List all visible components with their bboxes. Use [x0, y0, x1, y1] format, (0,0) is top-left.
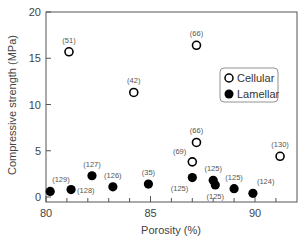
point-annotation: (130)	[271, 140, 289, 149]
cellular-point-open-circle-icon	[192, 138, 200, 146]
point-annotation: (124)	[257, 177, 275, 186]
legend: Cellular Lamellar	[220, 68, 280, 102]
legend-label-lamellar: Lamellar	[237, 88, 280, 100]
legend-open-circle-icon	[225, 74, 233, 82]
lamellar-point-filled-circle-icon	[108, 182, 117, 191]
point-annotation: (125)	[225, 173, 243, 182]
lamellar-point-filled-circle-icon	[87, 171, 96, 180]
y-tick-label: 5	[35, 145, 41, 157]
x-tick-label: 85	[144, 207, 156, 219]
lamellar-point-filled-circle-icon	[248, 189, 257, 198]
lamellar-point-filled-circle-icon	[211, 180, 220, 189]
point-annotation: (69)	[173, 147, 187, 156]
legend-filled-circle-icon	[225, 90, 234, 99]
point-annotation: (51)	[62, 36, 76, 45]
lamellar-point-filled-circle-icon	[230, 184, 239, 193]
lamellar-point-filled-circle-icon	[46, 187, 55, 196]
point-annotation: (66)	[190, 29, 204, 38]
point-annotation: (129)	[52, 175, 70, 184]
y-tick-label: 15	[29, 52, 41, 64]
lamellar-point-filled-circle-icon	[144, 179, 153, 188]
data-points: (51)(42)(66)(66)(69)(130)(129)(128)(127)…	[46, 29, 290, 201]
point-annotation: (126)	[104, 171, 122, 180]
x-tick-label: 80	[40, 207, 52, 219]
point-annotation: (127)	[83, 160, 101, 169]
scatter-chart: 05101520808590 (51)(42)(66)(66)(69)(130)…	[0, 0, 306, 245]
cellular-point-open-circle-icon	[65, 48, 73, 56]
cellular-point-open-circle-icon	[188, 158, 196, 166]
point-annotation: (125)	[207, 192, 225, 201]
point-annotation: (128)	[77, 186, 95, 195]
cellular-point-open-circle-icon	[192, 41, 200, 49]
x-tick-label: 90	[249, 207, 261, 219]
point-annotation: (42)	[127, 76, 141, 85]
cellular-point-open-circle-icon	[276, 152, 284, 160]
point-annotation: (125)	[204, 164, 222, 173]
y-axis-title: Compressive strength (MPa)	[6, 35, 18, 175]
y-tick-label: 10	[29, 99, 41, 111]
point-annotation: (35)	[142, 168, 156, 177]
lamellar-point-filled-circle-icon	[66, 185, 75, 194]
y-tick-label: 0	[35, 191, 41, 203]
point-annotation: (66)	[190, 126, 204, 135]
y-tick-label: 20	[29, 6, 41, 18]
plot-frame	[46, 12, 297, 202]
cellular-point-open-circle-icon	[130, 88, 138, 96]
legend-label-cellular: Cellular	[237, 72, 275, 84]
x-axis-title: Porosity (%)	[141, 224, 201, 236]
point-annotation: (125)	[171, 184, 189, 193]
lamellar-point-filled-circle-icon	[188, 173, 197, 182]
